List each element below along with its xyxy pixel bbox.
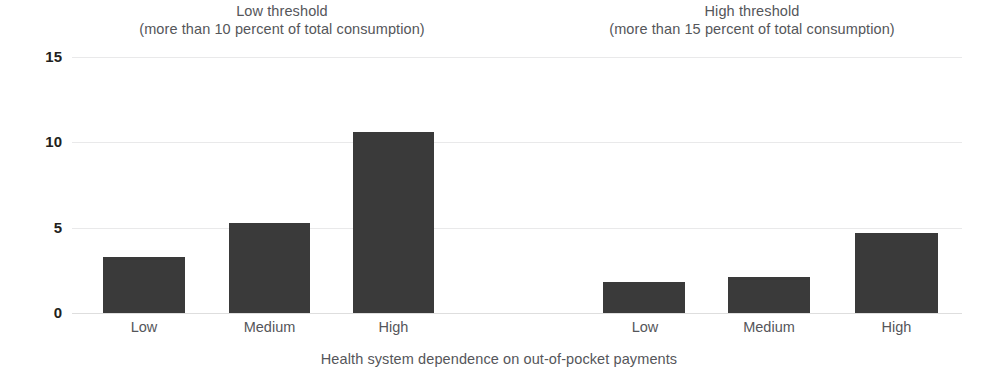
bar-low-threshold-medium xyxy=(229,223,310,313)
bar-high-threshold-low xyxy=(603,282,685,313)
bar-chart: Low threshold (more than 10 percent of t… xyxy=(0,0,998,378)
panel-title-high-threshold: High threshold (more than 15 percent of … xyxy=(542,2,962,38)
gridline-15 xyxy=(72,57,962,58)
panel-title-high-threshold-line2: (more than 15 percent of total consumpti… xyxy=(542,20,962,38)
x-axis-title: Health system dependence on out-of-pocke… xyxy=(0,350,998,368)
x-label-high-threshold-medium: Medium xyxy=(728,318,810,336)
bar-high-threshold-medium xyxy=(728,277,810,313)
gridline-5 xyxy=(72,228,962,229)
panel-title-low-threshold-line1: Low threshold xyxy=(72,2,492,20)
y-axis-tick-10: 10 xyxy=(12,134,62,149)
gridline-10 xyxy=(72,142,962,143)
panel-title-low-threshold: Low threshold (more than 10 percent of t… xyxy=(72,2,492,38)
y-axis-tick-0: 0 xyxy=(12,305,62,320)
x-label-high-threshold-high: High xyxy=(855,318,938,336)
panel-title-low-threshold-line2: (more than 10 percent of total consumpti… xyxy=(72,20,492,38)
bar-low-threshold-low xyxy=(103,257,185,313)
panel-title-high-threshold-line1: High threshold xyxy=(542,2,962,20)
bar-low-threshold-high xyxy=(353,132,434,313)
gridline-0 xyxy=(72,313,962,314)
plot-area xyxy=(72,57,962,313)
x-label-low-threshold-high: High xyxy=(353,318,434,336)
x-label-low-threshold-low: Low xyxy=(104,318,184,336)
x-label-low-threshold-medium: Medium xyxy=(229,318,310,336)
bar-high-threshold-high xyxy=(855,233,938,313)
y-axis-tick-5: 5 xyxy=(12,220,62,235)
y-axis-tick-15: 15 xyxy=(12,49,62,64)
x-label-high-threshold-low: Low xyxy=(604,318,686,336)
